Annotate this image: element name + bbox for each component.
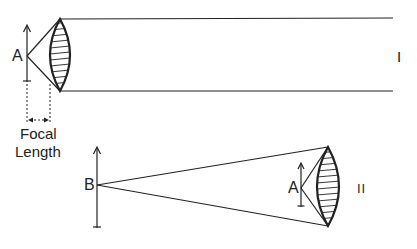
panel-ii <box>93 147 352 232</box>
arrowhead-left-icon <box>28 118 33 123</box>
label-b-panel-ii: B <box>84 177 95 193</box>
label-panel-ii: II <box>357 182 366 195</box>
ray-lower <box>27 56 60 91</box>
optics-diagram: A I Focal Length B A II <box>0 0 417 249</box>
label-a-panel-i: A <box>12 48 23 64</box>
focal-length-dimension <box>27 84 50 124</box>
focal-length-label-line2: Length <box>15 144 61 159</box>
label-panel-i: I <box>397 49 401 64</box>
lens-icon <box>305 147 352 232</box>
diagram-canvas <box>0 0 417 249</box>
focal-length-label-line1: Focal <box>20 126 57 141</box>
ray-upper <box>27 19 60 56</box>
beam-upper <box>60 18 393 19</box>
panel-i <box>23 18 393 124</box>
label-a-panel-ii: A <box>288 180 299 196</box>
arrowhead-right-icon <box>44 118 49 123</box>
lens-icon <box>40 19 80 97</box>
